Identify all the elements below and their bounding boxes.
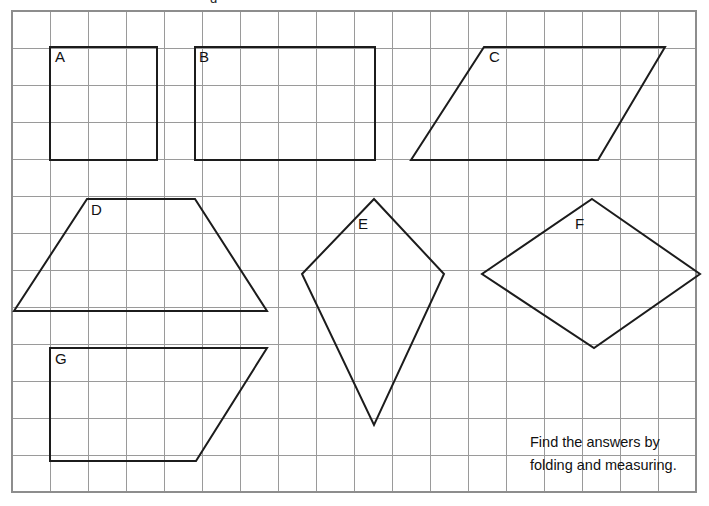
shape-f (482, 199, 700, 348)
instruction-line-2: folding and measuring. (530, 457, 677, 473)
shape-b-label: B (199, 48, 209, 65)
instruction-line-1: Find the answers by (530, 434, 661, 450)
worksheet-svg: ABCDEFG Find the answers by folding and … (0, 0, 709, 506)
shape-e-label: E (358, 215, 368, 232)
shape-d (14, 199, 267, 311)
shape-b (195, 47, 375, 160)
worksheet-canvas: g ABCDEFG Find the answers by folding an… (0, 0, 709, 506)
shape-a-label: A (55, 48, 65, 65)
shape-f-label: F (575, 215, 584, 232)
shape-d-label: D (91, 201, 102, 218)
shape-c-label: C (489, 48, 500, 65)
shape-c (411, 47, 665, 160)
shapes-group: ABCDEFG (14, 47, 700, 461)
grid (12, 11, 696, 492)
shape-a (50, 47, 157, 160)
shape-g (50, 348, 267, 461)
shape-g-label: G (55, 350, 67, 367)
